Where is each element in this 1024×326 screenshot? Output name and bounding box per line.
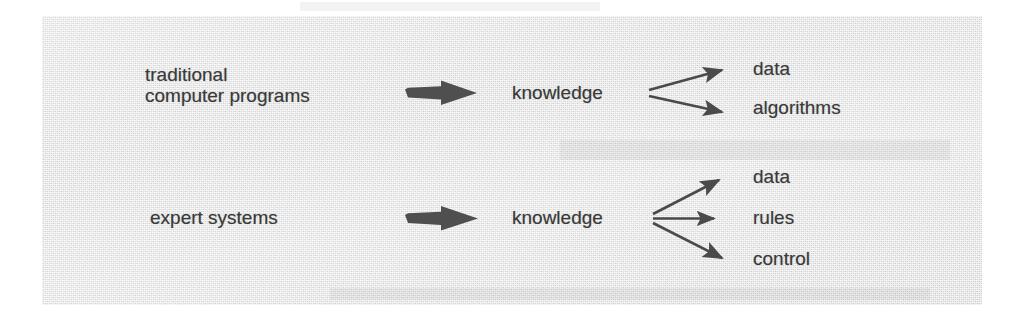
row-traditional-thick-arrow xyxy=(405,81,477,106)
row-expert-systems-branch-arrows xyxy=(653,180,722,258)
row-expert-systems-thick-arrow xyxy=(405,206,478,231)
row-expert-systems-branch-0-arrow xyxy=(653,180,719,214)
row-traditional-branch-arrows xyxy=(649,70,722,112)
row-expert-systems-branch-2-arrow xyxy=(653,223,722,258)
figure-canvas: traditional computer programs knowledge … xyxy=(0,0,1024,326)
row-traditional-branch-0-arrow xyxy=(649,70,722,90)
row-traditional-branch-1-arrow xyxy=(649,96,722,112)
arrow-layer xyxy=(0,0,1024,326)
